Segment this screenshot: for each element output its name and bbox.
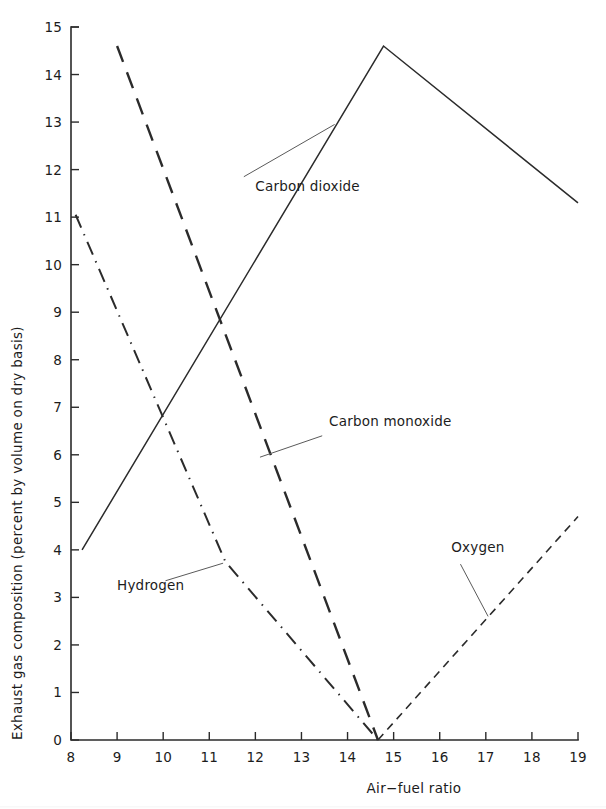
y-axis-tick-labels: 0123456789101112131415 bbox=[44, 19, 62, 748]
y-tick-label: 1 bbox=[53, 684, 62, 700]
x-tick-label: 18 bbox=[523, 749, 541, 765]
exhaust-gas-composition-figure: 0123456789101112131415 89101112131415161… bbox=[0, 0, 606, 809]
x-axis-tick-labels: 8910111213141516171819 bbox=[67, 749, 587, 765]
y-tick-label: 4 bbox=[53, 542, 62, 558]
y-tick-label: 3 bbox=[53, 589, 62, 605]
series-labels: Carbon dioxideCarbon monoxideHydrogenOxy… bbox=[117, 178, 504, 593]
x-tick-label: 8 bbox=[67, 749, 76, 765]
y-axis-ticks bbox=[71, 27, 79, 740]
y-tick-label: 6 bbox=[53, 447, 62, 463]
y-axis-title: Exhaust gas composition (percent by volu… bbox=[9, 326, 25, 740]
y-tick-label: 2 bbox=[53, 637, 62, 653]
series-line-carbon-dioxide bbox=[82, 46, 578, 550]
leader-line-oxygen bbox=[460, 564, 488, 616]
x-tick-label: 13 bbox=[293, 749, 311, 765]
y-tick-label: 0 bbox=[53, 732, 62, 748]
x-axis-ticks bbox=[71, 732, 578, 740]
x-tick-label: 17 bbox=[477, 749, 495, 765]
y-tick-label: 5 bbox=[53, 494, 62, 510]
leader-line-carbon-monoxide bbox=[260, 436, 322, 457]
y-tick-label: 9 bbox=[53, 304, 62, 320]
data-series bbox=[76, 46, 578, 740]
axis-spines bbox=[71, 27, 578, 740]
x-tick-label: 10 bbox=[154, 749, 172, 765]
x-tick-label: 12 bbox=[247, 749, 265, 765]
y-tick-label: 12 bbox=[44, 162, 62, 178]
y-tick-label: 10 bbox=[44, 257, 62, 273]
y-tick-label: 15 bbox=[44, 19, 62, 35]
y-tick-label: 14 bbox=[44, 67, 62, 83]
series-label-carbon-dioxide: Carbon dioxide bbox=[255, 178, 360, 194]
series-leader-lines bbox=[165, 124, 488, 616]
x-tick-label: 9 bbox=[113, 749, 122, 765]
chart-axes bbox=[71, 27, 578, 740]
x-tick-label: 19 bbox=[569, 749, 587, 765]
series-label-hydrogen: Hydrogen bbox=[117, 577, 184, 593]
y-tick-label: 7 bbox=[53, 399, 62, 415]
series-label-oxygen: Oxygen bbox=[451, 539, 504, 555]
series-label-carbon-monoxide: Carbon monoxide bbox=[329, 413, 451, 429]
x-axis-title: Air−fuel ratio bbox=[367, 780, 462, 796]
x-tick-label: 11 bbox=[200, 749, 218, 765]
series-line-hydrogen bbox=[76, 215, 378, 740]
x-tick-label: 15 bbox=[385, 749, 403, 765]
x-tick-label: 14 bbox=[339, 749, 357, 765]
y-tick-label: 13 bbox=[44, 114, 62, 130]
line-chart: 0123456789101112131415 89101112131415161… bbox=[0, 0, 606, 809]
y-tick-label: 11 bbox=[44, 209, 62, 225]
x-tick-label: 16 bbox=[431, 749, 449, 765]
y-tick-label: 8 bbox=[53, 352, 62, 368]
series-line-carbon-monoxide bbox=[117, 46, 378, 740]
